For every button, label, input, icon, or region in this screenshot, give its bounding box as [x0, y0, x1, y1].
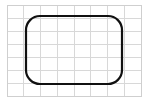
figure-canvas: [0, 0, 147, 104]
figure-container: [0, 0, 147, 104]
